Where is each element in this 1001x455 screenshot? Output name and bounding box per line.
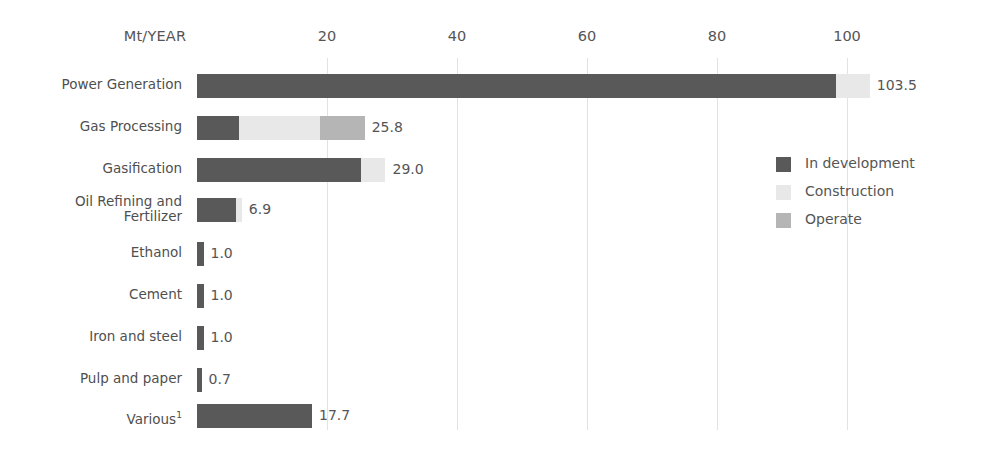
bar-segment-in-development[interactable] <box>197 198 236 222</box>
x-tick-label-100: 100 <box>817 28 877 44</box>
stacked-bar[interactable] <box>197 284 204 308</box>
x-tick-label-40: 40 <box>427 28 487 44</box>
bar-segment-construction[interactable] <box>236 198 242 222</box>
bar-value-label: 0.7 <box>209 371 231 387</box>
category-label: Oil Refining andFertilizer <box>0 194 182 224</box>
legend-swatch-icon <box>776 185 791 200</box>
legend-label: Construction <box>805 183 894 199</box>
stacked-bar[interactable] <box>197 404 312 428</box>
category-label: Various1 <box>0 407 182 427</box>
category-label: Gas Processing <box>0 119 182 134</box>
bar-value-label: 103.5 <box>877 77 917 93</box>
bar-segment-construction[interactable] <box>361 158 386 182</box>
category-label: Iron and steel <box>0 329 182 344</box>
bar-segment-in-development[interactable] <box>197 284 204 308</box>
bar-segment-in-development[interactable] <box>197 326 204 350</box>
gridline-20 <box>327 58 328 430</box>
bar-segment-in-development[interactable] <box>197 404 312 428</box>
legend-label: In development <box>805 155 915 171</box>
bar-segment-construction[interactable] <box>239 116 321 140</box>
gridline-60 <box>587 58 588 430</box>
bar-value-label: 1.0 <box>211 329 233 345</box>
bar-value-label: 1.0 <box>211 287 233 303</box>
bar-value-label: 1.0 <box>211 245 233 261</box>
ccs-capacity-bar-chart: Mt/YEAR 20406080100 Power Generation103.… <box>0 0 1001 455</box>
stacked-bar[interactable] <box>197 116 365 140</box>
stacked-bar[interactable] <box>197 158 385 182</box>
bar-value-label: 29.0 <box>393 161 424 177</box>
stacked-bar[interactable] <box>197 198 242 222</box>
bar-value-label: 17.7 <box>319 407 350 423</box>
bar-segment-construction[interactable] <box>836 74 870 98</box>
bar-segment-in-development[interactable] <box>197 116 239 140</box>
bar-segment-in-development[interactable] <box>197 74 836 98</box>
gridline-100 <box>847 58 848 430</box>
x-axis-title: Mt/YEAR <box>110 28 200 44</box>
legend-swatch-icon <box>776 213 791 228</box>
stacked-bar[interactable] <box>197 326 204 350</box>
bar-segment-in-development[interactable] <box>197 242 204 266</box>
stacked-bar[interactable] <box>197 74 870 98</box>
category-label: Pulp and paper <box>0 371 182 386</box>
category-label: Ethanol <box>0 245 182 260</box>
category-label: Power Generation <box>0 77 182 92</box>
bar-value-label: 6.9 <box>249 201 271 217</box>
bar-segment-in-development[interactable] <box>197 368 202 392</box>
category-label-line1: Oil Refining and <box>0 194 182 209</box>
legend-swatch-icon <box>776 157 791 172</box>
stacked-bar[interactable] <box>197 368 202 392</box>
x-tick-label-20: 20 <box>297 28 357 44</box>
gridlines <box>0 0 1001 455</box>
legend-label: Operate <box>805 211 862 227</box>
x-tick-label-80: 80 <box>687 28 747 44</box>
bar-value-label: 25.8 <box>372 119 403 135</box>
bar-segment-in-development[interactable] <box>197 158 361 182</box>
bar-segment-operate[interactable] <box>320 116 364 140</box>
x-tick-label-60: 60 <box>557 28 617 44</box>
category-label-footnote-marker: 1 <box>176 409 182 420</box>
category-label: Gasification <box>0 161 182 176</box>
category-label: Cement <box>0 287 182 302</box>
category-label-line2: Fertilizer <box>0 209 182 224</box>
stacked-bar[interactable] <box>197 242 204 266</box>
gridline-40 <box>457 58 458 430</box>
gridline-80 <box>717 58 718 430</box>
